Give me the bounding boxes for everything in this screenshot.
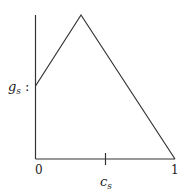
diagram: gs : 0 1 cs [0,0,189,195]
x-label: cs [100,174,112,191]
x-tick-label-1: 1 [171,163,179,177]
function-curve [36,15,176,159]
y-label: gs : [8,79,29,96]
x-tick-label-0: 0 [35,163,43,177]
